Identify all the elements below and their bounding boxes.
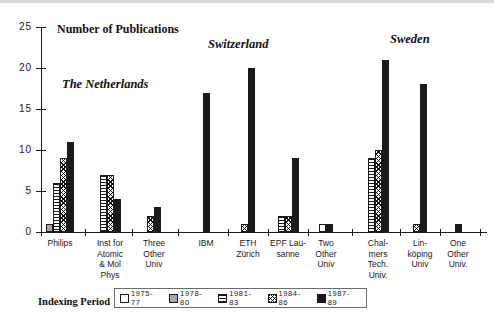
legend-swatch-icon bbox=[218, 294, 227, 303]
legend-item: 1975-77 bbox=[120, 289, 162, 307]
legend-label: 1981-83 bbox=[229, 289, 260, 307]
group-label-the-netherlands: The Netherlands bbox=[62, 77, 148, 92]
x-category-line: Univ. bbox=[354, 270, 402, 281]
y-tick-mark bbox=[36, 150, 46, 151]
bar bbox=[100, 175, 107, 232]
y-tick-mark bbox=[36, 109, 46, 110]
x-category-label: IBM bbox=[182, 238, 230, 249]
x-category-label: OneOtherUniv. bbox=[434, 238, 482, 270]
x-tick-mark bbox=[268, 229, 269, 236]
x-category-line: mers bbox=[354, 249, 402, 260]
bar bbox=[154, 207, 161, 232]
bar bbox=[67, 142, 74, 232]
x-category-line: Inst for bbox=[86, 238, 134, 249]
legend-swatch-icon bbox=[120, 294, 129, 303]
y-tick-label: 0 bbox=[0, 227, 32, 237]
x-category-line: Chal- bbox=[354, 238, 402, 249]
y-tick-mark bbox=[36, 68, 46, 69]
bar bbox=[53, 183, 60, 232]
bar bbox=[46, 224, 53, 232]
bar bbox=[368, 158, 375, 232]
bar bbox=[114, 199, 121, 232]
bar bbox=[319, 224, 326, 232]
bar bbox=[455, 224, 462, 232]
bar bbox=[147, 216, 154, 232]
group-label-switzerland: Switzerland bbox=[208, 37, 268, 52]
x-category-line: Atomic bbox=[86, 249, 134, 260]
y-tick-label: 25 bbox=[0, 22, 32, 32]
y-axis-line bbox=[41, 27, 42, 233]
legend-item: 1987-89 bbox=[317, 289, 359, 307]
bar bbox=[278, 216, 285, 232]
x-tick-mark bbox=[480, 229, 481, 236]
x-tick-mark bbox=[440, 229, 441, 236]
x-tick-mark bbox=[352, 229, 353, 236]
bar bbox=[248, 68, 255, 232]
legend-item: 1978-80 bbox=[169, 289, 211, 307]
legend-title: Indexing Period bbox=[38, 296, 110, 307]
legend-swatch-icon bbox=[317, 294, 326, 303]
x-category-line: Two bbox=[302, 238, 350, 249]
y-tick-mark bbox=[36, 27, 46, 28]
legend-item: 1984-86 bbox=[268, 289, 310, 307]
x-category-line: Univ bbox=[302, 259, 350, 270]
x-tick-mark bbox=[228, 229, 229, 236]
x-axis-line bbox=[41, 232, 487, 233]
bar bbox=[420, 84, 427, 232]
top-rule bbox=[0, 0, 494, 3]
x-tick-mark bbox=[308, 229, 309, 236]
x-category-label: Chal-mersTech.Univ. bbox=[354, 238, 402, 280]
legend-swatch-icon bbox=[268, 294, 277, 303]
x-tick-mark bbox=[85, 229, 86, 236]
x-category-line: Other bbox=[302, 249, 350, 260]
chart-title: Number of Publications bbox=[57, 22, 179, 37]
bar bbox=[241, 224, 248, 232]
x-tick-mark bbox=[41, 229, 42, 236]
y-tick-label: 15 bbox=[0, 104, 32, 114]
publications-bar-chart: Number of Publications 2520151050 The Ne… bbox=[0, 0, 494, 332]
legend-box: 1975-771978-801981-831984-861987-89 bbox=[114, 288, 367, 308]
legend-label: 1987-89 bbox=[328, 289, 359, 307]
x-category-label: Inst forAtomic& MolPhys bbox=[86, 238, 134, 280]
bar bbox=[203, 93, 210, 232]
x-tick-mark bbox=[132, 229, 133, 236]
legend-label: 1978-80 bbox=[180, 289, 211, 307]
y-tick-label: 5 bbox=[0, 186, 32, 196]
bar bbox=[60, 158, 67, 232]
x-category-line: IBM bbox=[182, 238, 230, 249]
x-category-line: Philips bbox=[36, 238, 84, 249]
y-tick-label: 10 bbox=[0, 145, 32, 155]
x-category-line: Univ. bbox=[434, 259, 482, 270]
x-category-label: ThreeOtherUniv bbox=[130, 238, 178, 270]
x-tick-mark bbox=[400, 229, 401, 236]
bar bbox=[413, 224, 420, 232]
x-category-line: Three bbox=[130, 238, 178, 249]
x-category-label: TwoOtherUniv bbox=[302, 238, 350, 270]
x-category-line: One bbox=[434, 238, 482, 249]
group-label-sweden: Sweden bbox=[390, 32, 430, 47]
legend-label: 1975-77 bbox=[131, 289, 162, 307]
x-category-line: Univ bbox=[130, 259, 178, 270]
bar bbox=[292, 158, 299, 232]
legend-label: 1984-86 bbox=[279, 289, 310, 307]
x-category-line: Other bbox=[434, 249, 482, 260]
y-tick-mark bbox=[36, 191, 46, 192]
y-tick-label: 20 bbox=[0, 63, 32, 73]
bar bbox=[375, 150, 382, 232]
bar bbox=[107, 175, 114, 232]
x-category-line: Other bbox=[130, 249, 178, 260]
x-category-line: Tech. bbox=[354, 259, 402, 270]
x-category-line: Phys bbox=[86, 270, 134, 281]
x-category-line: & Mol bbox=[86, 259, 134, 270]
x-tick-mark bbox=[178, 229, 179, 236]
bar bbox=[326, 224, 333, 232]
legend-item: 1981-83 bbox=[218, 289, 260, 307]
x-category-label: Philips bbox=[36, 238, 84, 249]
bar bbox=[285, 216, 292, 232]
legend-swatch-icon bbox=[169, 294, 178, 303]
bar bbox=[382, 60, 389, 232]
